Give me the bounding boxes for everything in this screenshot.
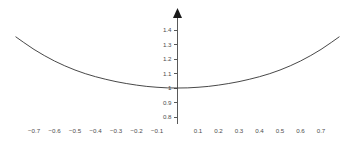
y-axis-tick-label: 0.8: [163, 113, 172, 120]
y-axis-tick-label: 0.9: [163, 99, 172, 106]
chart-figure: 0.80.911.11.21.31.4 −0.7−0.6−0.5−0.4−0.3…: [0, 0, 349, 142]
x-axis-tick-label: −0.7: [28, 127, 41, 134]
y-axis-tick-label: 1.1: [163, 70, 172, 77]
x-axis-tick-label: 0.5: [276, 127, 285, 134]
x-axis-tick-label: 0.3: [235, 127, 244, 134]
chart-canvas: 0.80.911.11.21.31.4 −0.7−0.6−0.5−0.4−0.3…: [0, 0, 349, 142]
x-tick-group: −0.7−0.6−0.5−0.4−0.3−0.2−0.10.10.20.30.4…: [28, 127, 326, 134]
y-axis-tick-label: 1.2: [163, 55, 172, 62]
x-axis-tick-label: −0.2: [130, 127, 143, 134]
y-axis-arrow-icon: [173, 8, 182, 18]
x-axis-tick-label: −0.1: [151, 127, 164, 134]
y-axis-tick-label: 1.4: [163, 26, 172, 33]
y-axis-tick-label: 1.3: [163, 41, 172, 48]
x-axis-tick-label: 0.2: [214, 127, 223, 134]
x-axis-tick-label: −0.5: [69, 127, 82, 134]
x-axis-tick-label: −0.4: [89, 127, 102, 134]
y-tick-group: 0.80.911.11.21.31.4: [163, 26, 177, 120]
x-axis-tick-label: 0.1: [194, 127, 203, 134]
x-axis-tick-label: −0.3: [110, 127, 123, 134]
x-axis-tick-label: 0.7: [317, 127, 326, 134]
y-axis-group: [173, 8, 182, 124]
x-axis-tick-label: 0.6: [296, 127, 305, 134]
x-axis-tick-label: 0.4: [255, 127, 264, 134]
x-axis-tick-label: −0.6: [48, 127, 61, 134]
